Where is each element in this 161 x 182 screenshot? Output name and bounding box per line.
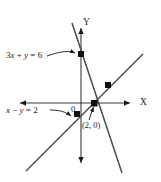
line2-leader — [50, 110, 71, 116]
equation-label-line1: 3x + y = 6 — [6, 51, 42, 60]
equation-label-line2: x − y = 2 — [6, 106, 38, 115]
line-3x-plus-y-equals-6 — [72, 23, 122, 173]
equation-label-line1-text: 3x + y = 6 — [6, 50, 42, 60]
origin-label: 0 — [71, 105, 75, 114]
intersection-point-label: (2, 0) — [82, 121, 100, 130]
coordinate-graph-figure: X Y 0 3x + y = 6 x − y = 2 (2, 0) — [0, 0, 161, 182]
graph-canvas — [0, 0, 161, 182]
x-axis-label: X — [140, 98, 147, 108]
line-x-minus-y-equals-2 — [26, 54, 143, 171]
data-point-0-6 — [78, 51, 84, 57]
equation-label-line2-text: x − y = 2 — [6, 105, 38, 115]
line1-leader — [47, 52, 75, 56]
data-point-intersection-2-0 — [91, 100, 98, 107]
data-point-4-2 — [105, 82, 111, 88]
y-axis-label: Y — [83, 18, 90, 28]
intersection-pointer — [89, 107, 94, 120]
